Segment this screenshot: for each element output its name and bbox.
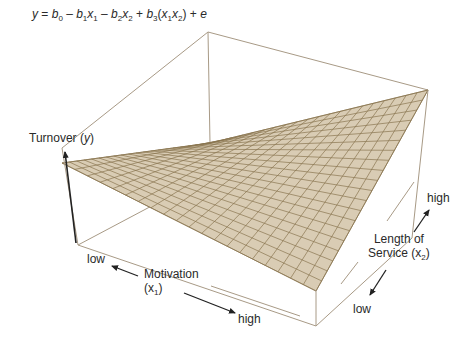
x2-guide-line-lower	[341, 262, 358, 284]
x2-high-arrow-icon	[414, 210, 429, 232]
x2-high-label: high	[427, 191, 450, 205]
x2-low-label: low	[353, 302, 371, 316]
regression-surface-diagram: y = b0 – b1x1 – b2x2 + b3(x1x2) + e	[0, 0, 471, 349]
x1-axis-label: Motivation (x1)	[144, 267, 199, 300]
y-axis-label: Turnover (y)	[29, 131, 94, 145]
x2-guide-line-upper	[387, 182, 414, 221]
x2-axis-label: Length of Service (x2)	[368, 232, 430, 265]
x1-low-label: low	[87, 252, 105, 266]
plot-canvas	[0, 0, 471, 349]
x1-high-label: high	[238, 312, 261, 326]
x1-low-arrow-icon	[112, 266, 138, 276]
